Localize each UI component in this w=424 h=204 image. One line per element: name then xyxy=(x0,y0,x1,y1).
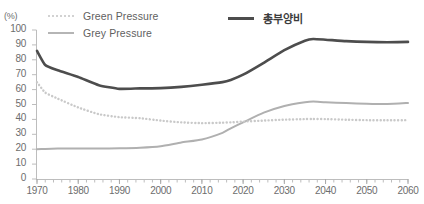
x-tick-label: 2040 xyxy=(306,185,346,196)
y-tick-label: 30 xyxy=(2,127,26,138)
y-tick-label: 60 xyxy=(2,83,26,94)
x-tick-label: 1980 xyxy=(58,185,98,196)
y-tick-label: 80 xyxy=(2,53,26,64)
y-tick-label: 50 xyxy=(2,98,26,109)
y-tick-label: 70 xyxy=(2,68,26,79)
y-tick-label: 0 xyxy=(2,172,26,183)
x-tick-label: 2060 xyxy=(388,185,424,196)
y-tick-label: 20 xyxy=(2,142,26,153)
series-line-total-dependency-ratio xyxy=(37,39,408,89)
x-tick-label: 2050 xyxy=(347,185,387,196)
axis-lines xyxy=(36,30,408,180)
x-tick-label: 1990 xyxy=(99,185,139,196)
x-tick-label: 2030 xyxy=(264,185,304,196)
y-tick-label: 10 xyxy=(2,157,26,168)
data-series-layer xyxy=(37,39,408,149)
y-tick-label: 40 xyxy=(2,112,26,123)
series-line-grey-pressure xyxy=(37,102,408,150)
x-tick-label: 2000 xyxy=(141,185,181,196)
x-tick-label: 2020 xyxy=(223,185,263,196)
y-tick-label: 100 xyxy=(2,23,26,34)
x-tick-label: 1970 xyxy=(17,185,57,196)
y-axis-ticks xyxy=(32,30,37,179)
y-tick-label: 90 xyxy=(2,38,26,49)
x-tick-label: 2010 xyxy=(182,185,222,196)
